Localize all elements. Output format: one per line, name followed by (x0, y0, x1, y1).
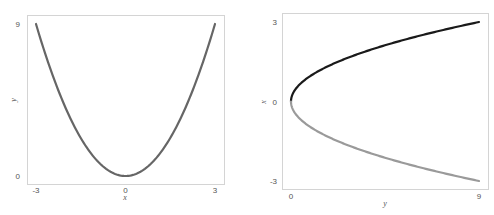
right-plot-series-line-0 (291, 22, 479, 102)
right-plot-y-ticks: -303 (270, 18, 278, 186)
left-plot-x-axis-label: x (122, 193, 127, 202)
left-plot-frame (28, 16, 225, 185)
right-plot-x-tick-label: 0 (289, 192, 294, 201)
left-plot-y-axis-label: y (9, 98, 18, 103)
right-plot-series (291, 22, 479, 181)
right-plot-y-tick-label: 3 (273, 18, 278, 27)
right-plot-x-axis-label: y (382, 199, 387, 208)
right-plot-frame (283, 14, 489, 190)
left-plot-series-line-0 (36, 24, 215, 176)
right-plot: 09 -303 y x (259, 14, 489, 209)
right-plot-y-axis-label: x (259, 100, 268, 105)
left-plot-y-tick-label: 9 (16, 20, 21, 29)
left-plot-series (36, 24, 215, 176)
right-plot-x-tick-label: 9 (477, 192, 482, 201)
left-plot-y-tick-label: 0 (16, 172, 21, 181)
left-plot-x-tick-label: 3 (213, 186, 218, 195)
left-plot: -303 09 x y (9, 16, 225, 203)
left-plot-x-tick-label: -3 (32, 186, 40, 195)
right-plot-series-line-1 (291, 102, 479, 182)
chart-figure: -303 09 x y 09 -303 y x (0, 0, 494, 215)
right-plot-y-tick-label: 0 (273, 98, 278, 107)
right-plot-y-tick-label: -3 (270, 177, 278, 186)
